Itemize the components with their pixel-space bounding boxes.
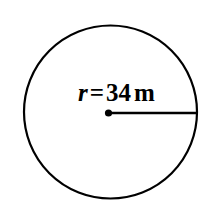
circle-diagram-svg bbox=[0, 0, 218, 215]
geometry-figure: r=34m bbox=[0, 0, 218, 215]
center-point-dot bbox=[105, 109, 112, 116]
